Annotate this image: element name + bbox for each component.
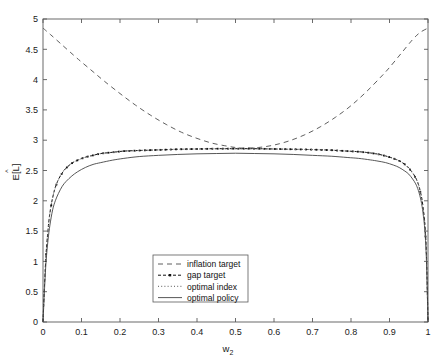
y-axis-tick-labels: 00.511.522.533.544.55 xyxy=(25,14,38,327)
series-marker xyxy=(165,149,167,151)
y-axis-title-text: E[L] xyxy=(10,164,21,181)
series-marker xyxy=(217,148,219,150)
x-tick-label: 0.9 xyxy=(383,327,396,337)
y-tick-label: 1 xyxy=(33,257,38,267)
series-marker xyxy=(76,160,78,162)
y-tick-label: 5 xyxy=(33,14,38,24)
svg-text:w2: w2 xyxy=(222,343,234,356)
legend-label: optimal index xyxy=(187,282,238,292)
y-tick-label: 2.5 xyxy=(25,166,38,176)
x-axis-title-subscript: 2 xyxy=(229,349,233,356)
x-tick-label: 0.8 xyxy=(345,327,358,337)
y-tick-label: 3.5 xyxy=(25,105,38,115)
chart-canvas: 00.10.20.30.40.50.60.70.80.91 00.511.522… xyxy=(0,0,442,363)
y-tick-label: 1.5 xyxy=(25,226,38,236)
y-tick-label: 4.5 xyxy=(25,45,38,55)
x-axis-title-base: w xyxy=(222,343,230,354)
series-marker xyxy=(50,204,52,206)
x-tick-label: 1 xyxy=(425,327,430,337)
y-tick-label: 0.5 xyxy=(25,287,38,297)
series-marker xyxy=(206,148,208,150)
x-axis-title: w2 xyxy=(222,343,234,356)
series-marker xyxy=(357,151,359,153)
series-marker xyxy=(258,148,260,150)
series-marker xyxy=(71,162,73,164)
x-tick-label: 0.5 xyxy=(229,327,242,337)
series-marker xyxy=(66,167,68,169)
chart-legend[interactable]: inflation targetgap targetoptimal indexo… xyxy=(153,255,248,303)
figure-container: 00.10.20.30.40.50.60.70.80.91 00.511.522… xyxy=(0,0,442,363)
y-axis-title: E[L] ^ xyxy=(4,164,21,181)
series-line xyxy=(43,28,428,148)
y-tick-label: 0 xyxy=(33,317,38,327)
x-tick-label: 0.6 xyxy=(268,327,281,337)
x-tick-label: 0.3 xyxy=(152,327,165,337)
y-tick-label: 3 xyxy=(33,135,38,145)
legend-label: optimal policy xyxy=(187,293,239,303)
series-marker xyxy=(315,149,317,151)
series-marker xyxy=(300,149,302,151)
x-tick-label: 0.1 xyxy=(75,327,88,337)
legend-label: inflation target xyxy=(187,259,241,269)
series-marker xyxy=(149,149,151,151)
series-marker xyxy=(175,148,177,150)
x-tick-label: 0.2 xyxy=(114,327,127,337)
y-tick-label: 4 xyxy=(33,75,38,85)
series-marker xyxy=(274,148,276,150)
series-marker xyxy=(232,148,234,150)
legend-marker-sample xyxy=(169,274,171,276)
series-marker xyxy=(123,150,125,152)
series-marker xyxy=(341,150,343,152)
x-tick-label: 0.4 xyxy=(191,327,204,337)
x-axis-tick-labels: 00.10.20.30.40.50.60.70.80.91 xyxy=(40,327,430,337)
series-marker xyxy=(289,148,291,150)
series-marker xyxy=(108,152,110,154)
x-tick-label: 0.7 xyxy=(306,327,319,337)
y-tick-label: 2 xyxy=(33,196,38,206)
series-marker xyxy=(92,155,94,157)
x-tick-label: 0 xyxy=(40,327,45,337)
series-marker xyxy=(191,148,193,150)
series-marker xyxy=(248,148,250,150)
legend-label: gap target xyxy=(187,270,226,280)
series-inflation-target xyxy=(43,28,428,148)
